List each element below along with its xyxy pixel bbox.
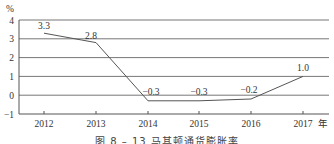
x-tick-label: 2014 — [139, 119, 158, 129]
line-chart: 43210−1 201220132014201520162017 3.32.8−… — [0, 0, 334, 132]
y-tick-labels: 43210−1 — [4, 16, 14, 120]
y-tick-label: 1 — [9, 72, 14, 82]
y-tick-label: 0 — [9, 91, 14, 101]
y-tick-label: −1 — [4, 110, 14, 120]
figure-caption: 图 8 – 13 马其顿通货膨胀率 — [0, 133, 334, 144]
data-label: −0.2 — [240, 85, 257, 95]
x-tick-label: 2013 — [87, 119, 106, 129]
x-tick-label: 2012 — [35, 119, 54, 129]
data-label: 2.8 — [85, 31, 97, 41]
data-label: −0.3 — [190, 87, 207, 97]
y-tick-label: 4 — [9, 16, 14, 26]
y-tick-label: 2 — [9, 53, 14, 63]
data-label: 3.3 — [38, 21, 50, 31]
y-tick-label: 3 — [9, 34, 14, 44]
x-tick-label: 2016 — [242, 119, 261, 129]
data-label: 1.0 — [297, 63, 309, 73]
x-tick-labels: 201220132014201520162017 — [35, 119, 313, 129]
x-tick-label: 2015 — [190, 119, 209, 129]
y-axis-unit: % — [6, 4, 14, 14]
inflation-line — [44, 33, 303, 101]
axes — [19, 20, 329, 114]
x-tick-label: 2017 — [294, 119, 313, 129]
data-labels: 3.32.8−0.3−0.3−0.21.0 — [38, 21, 309, 97]
data-label: −0.3 — [142, 87, 159, 97]
x-axis-unit: 年 — [318, 118, 328, 129]
gridlines — [19, 20, 329, 95]
